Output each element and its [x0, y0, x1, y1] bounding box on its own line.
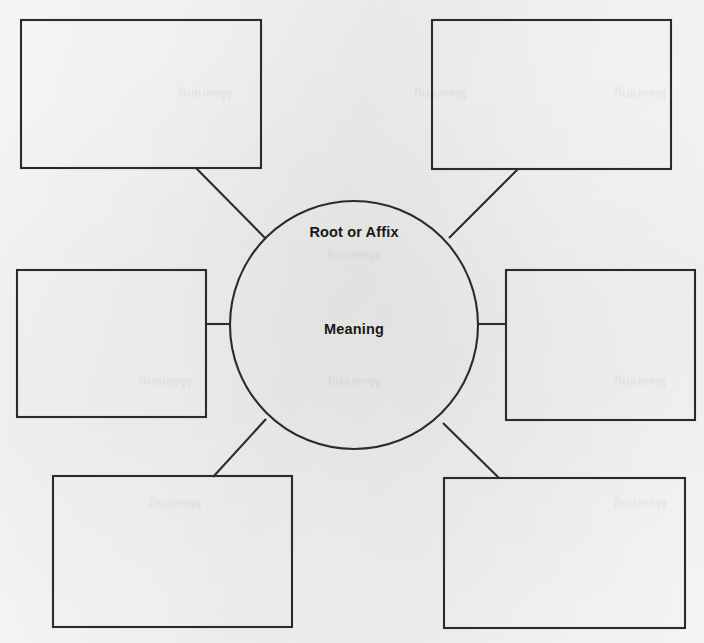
box-middle-left[interactable]: [17, 270, 206, 417]
watermark-layer: MeaningMeaningMeaningMeaningMeaningMeani…: [139, 87, 667, 512]
center-bottom-label: Meaning: [324, 321, 384, 337]
box-middle-left-outline[interactable]: [17, 270, 206, 417]
watermark-text: Meaning: [149, 497, 202, 512]
graphic-organizer-canvas: MeaningMeaningMeaningMeaningMeaningMeani…: [0, 0, 704, 643]
watermark-text: Meaning: [614, 87, 667, 102]
box-middle-right[interactable]: [506, 270, 695, 420]
watermark-text: Meaning: [614, 375, 667, 390]
watermark-text: Meaning: [179, 87, 232, 102]
connector-bottom-left: [213, 419, 266, 477]
watermark-text: Meaning: [614, 497, 667, 512]
connector-top-left: [196, 168, 266, 239]
watermark-text: Meaning: [414, 87, 467, 102]
watermark-text: Meaning: [328, 249, 381, 264]
watermark-text: Meaning: [328, 375, 381, 390]
connector-bottom-right: [443, 423, 499, 478]
box-middle-right-outline[interactable]: [506, 270, 695, 420]
watermark-text: Meaning: [139, 375, 192, 390]
connector-top-right: [449, 169, 518, 238]
center-top-label: Root or Affix: [309, 224, 398, 240]
